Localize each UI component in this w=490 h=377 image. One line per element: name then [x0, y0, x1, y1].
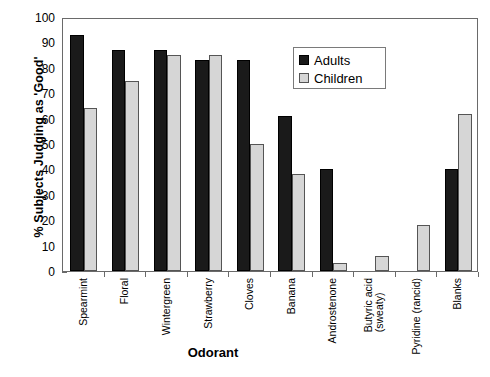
x-category-label: Banana [286, 278, 297, 314]
x-tick-mark [104, 272, 105, 277]
x-axis-title-text: Odorant [188, 345, 239, 360]
x-tick-mark [187, 272, 188, 277]
bar-children [250, 144, 264, 271]
bar-children [84, 108, 98, 271]
y-tick-label: 50 [42, 139, 55, 151]
x-category-label: Floral [119, 278, 130, 304]
plot-area [62, 18, 478, 272]
legend: Adults Children [293, 47, 386, 89]
y-tick-label: 30 [42, 190, 55, 202]
x-category-label: Wintergreen [161, 278, 172, 335]
bar-adults [70, 35, 84, 271]
x-tick-mark [436, 272, 437, 277]
legend-label-adults: Adults [314, 54, 350, 67]
bar-adults [112, 50, 126, 271]
bar-children [375, 256, 389, 271]
bar-children [333, 263, 347, 271]
x-tick-mark [353, 272, 354, 277]
legend-swatch-adults [299, 55, 309, 65]
legend-item-children: Children [299, 69, 385, 87]
x-category-label: Butyric acid(sweaty) [363, 278, 384, 332]
x-tick-mark [478, 272, 479, 277]
bar-adults [445, 169, 459, 271]
y-tick-label: 60 [42, 114, 55, 126]
y-tick-label: 10 [42, 241, 55, 253]
x-tick-mark [312, 272, 313, 277]
bar-chart-figure: % Subjects Judging as 'Good' 01020304050… [0, 0, 490, 377]
bar-children [458, 114, 472, 271]
y-tick-label: 0 [48, 266, 55, 278]
x-axis-category-labels: SpearmintFloralWintergreenStrawberryClov… [62, 278, 478, 344]
bar-children [209, 55, 223, 271]
y-axis-tick-labels: 0102030405060708090100 [0, 0, 62, 377]
y-tick-label: 40 [42, 164, 55, 176]
legend-swatch-children [299, 73, 309, 83]
x-category-label: Blanks [452, 278, 463, 310]
y-tick-label: 80 [42, 63, 55, 75]
x-category-label: Strawberry [203, 278, 214, 329]
legend-label-children: Children [314, 72, 362, 85]
bar-children [292, 174, 306, 271]
bar-children [417, 225, 431, 271]
x-tick-mark [228, 272, 229, 277]
y-tick-label: 70 [42, 88, 55, 100]
x-tick-mark [270, 272, 271, 277]
x-tick-mark [145, 272, 146, 277]
y-tick-label: 20 [42, 215, 55, 227]
bar-adults [320, 169, 334, 271]
x-category-label: Cloves [244, 278, 255, 310]
bar-children [167, 55, 181, 271]
bar-children [125, 81, 139, 272]
y-tick-label: 90 [42, 37, 55, 49]
x-tick-mark [395, 272, 396, 277]
x-axis-title: Odorant [0, 345, 490, 360]
bar-adults [237, 60, 251, 271]
x-category-label: Spearmint [78, 278, 89, 326]
bar-adults [154, 50, 168, 271]
x-category-label: Androstenone [327, 278, 338, 343]
bar-adults [278, 116, 292, 271]
y-tick-label: 100 [35, 12, 55, 24]
bar-adults [195, 60, 209, 271]
legend-item-adults: Adults [299, 51, 385, 69]
x-category-label: Pyridine (rancid) [411, 278, 422, 354]
